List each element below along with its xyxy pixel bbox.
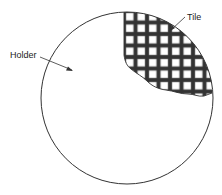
holder-tile-diagram: Holder Tile xyxy=(0,0,222,195)
tile-region xyxy=(118,0,218,100)
holder-label: Holder xyxy=(10,50,37,60)
holder-arrow xyxy=(40,57,73,71)
tile-label: Tile xyxy=(187,12,201,22)
